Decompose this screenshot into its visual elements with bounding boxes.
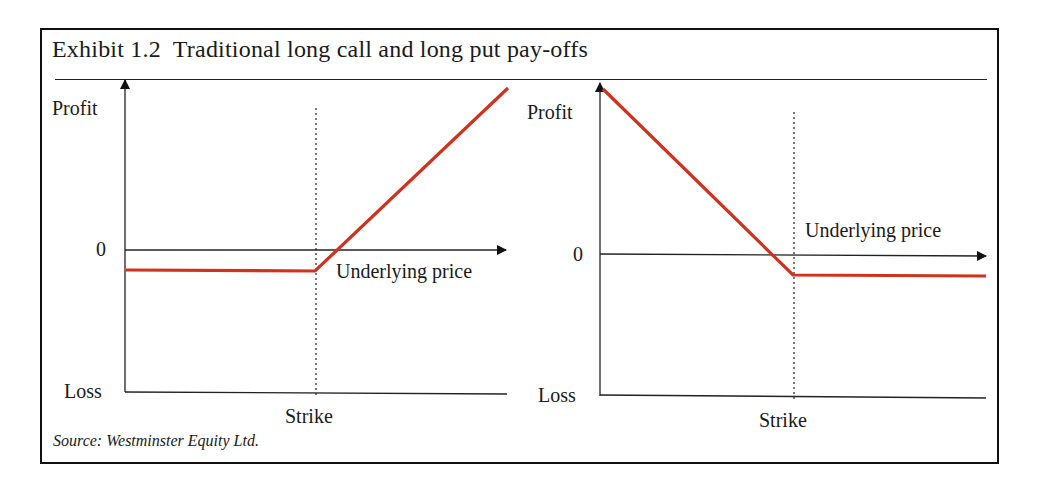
- left-profit-label: Profit: [52, 97, 98, 120]
- bottom-axis: [600, 395, 986, 398]
- right-x-label: Underlying price: [805, 219, 941, 242]
- source-note: Source: Westminster Equity Ltd.: [53, 432, 259, 450]
- long-call-chart: [125, 80, 508, 398]
- right-zero-label: 0: [573, 243, 583, 266]
- right-profit-label: Profit: [527, 101, 573, 124]
- x-axis: [600, 254, 986, 256]
- left-loss-label: Loss: [64, 380, 102, 403]
- left-zero-label: 0: [96, 238, 106, 261]
- right-loss-label: Loss: [538, 384, 576, 407]
- left-x-label: Underlying price: [336, 260, 472, 283]
- left-strike-label: Strike: [285, 405, 333, 428]
- payoff-charts: [0, 0, 1042, 498]
- long-call-payoff-line: [126, 88, 508, 271]
- long-put-chart: [600, 83, 986, 402]
- right-strike-label: Strike: [759, 409, 807, 432]
